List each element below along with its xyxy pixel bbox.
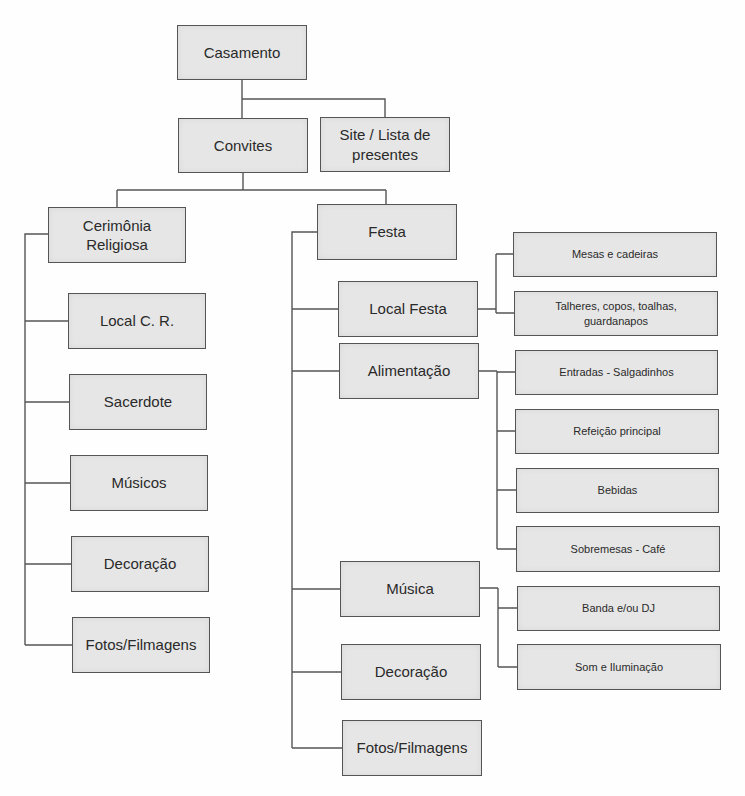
node-decoracao-cr: Decoração — [71, 536, 209, 592]
node-label: Sacerdote — [104, 392, 172, 412]
node-mesas: Mesas e cadeiras — [513, 232, 717, 277]
node-label: Músicos — [111, 473, 166, 493]
node-alimentacao: Alimentação — [339, 343, 479, 399]
node-label: Decoração — [375, 662, 448, 682]
node-label: Local C. R. — [100, 311, 174, 331]
node-som: Som e Iluminação — [517, 644, 721, 690]
node-local-cr: Local C. R. — [68, 293, 206, 349]
node-refeicao: Refeição principal — [515, 409, 719, 454]
node-banda: Banda e/ou DJ — [517, 586, 720, 631]
node-label: Sobremesas - Café — [571, 542, 666, 556]
connector-line — [25, 234, 72, 645]
node-label: Som e Iluminação — [575, 660, 663, 674]
node-talheres: Talheres, copos, toalhas, guardanapos — [514, 291, 718, 336]
node-label: Site / Lista de presentes — [340, 125, 431, 164]
node-cerimonia: Cerimônia Religiosa — [48, 207, 186, 263]
wedding-planning-tree-diagram: CasamentoConvitesSite / Lista de present… — [0, 0, 745, 796]
connector-line — [292, 232, 342, 748]
node-convites: Convites — [178, 118, 308, 173]
node-label: Convites — [214, 136, 272, 156]
node-entradas: Entradas - Salgadinhos — [515, 350, 718, 395]
node-festa: Festa — [317, 204, 457, 260]
node-sacerdote: Sacerdote — [69, 374, 207, 430]
node-label: Cerimônia Religiosa — [83, 216, 151, 255]
node-fotos-festa: Fotos/Filmagens — [342, 720, 482, 776]
node-label: Fotos/Filmagens — [86, 635, 197, 655]
node-label: Festa — [368, 222, 406, 242]
node-musicos: Músicos — [70, 455, 208, 511]
node-label: Música — [386, 579, 434, 599]
node-label: Fotos/Filmagens — [357, 738, 468, 758]
node-sobremesas: Sobremesas - Café — [516, 526, 720, 572]
node-label: Alimentação — [368, 361, 451, 381]
connector-line — [117, 173, 386, 207]
node-local-festa: Local Festa — [338, 281, 478, 337]
node-label: Talheres, copos, toalhas, guardanapos — [555, 299, 677, 328]
node-label: Decoração — [104, 554, 177, 574]
node-site-lista: Site / Lista de presentes — [320, 117, 450, 172]
node-musica: Música — [340, 561, 480, 617]
node-bebidas: Bebidas — [516, 468, 719, 513]
connector-line — [480, 588, 517, 667]
node-label: Entradas - Salgadinhos — [559, 365, 673, 379]
node-label: Banda e/ou DJ — [582, 601, 655, 615]
node-label: Refeição principal — [573, 424, 660, 438]
node-label: Bebidas — [598, 483, 638, 497]
node-fotos-cr: Fotos/Filmagens — [72, 617, 210, 673]
connector-line — [242, 99, 385, 117]
connector-line — [478, 254, 514, 313]
node-label: Mesas e cadeiras — [572, 247, 658, 261]
node-decoracao-festa: Decoração — [341, 644, 481, 700]
connector-line — [479, 371, 516, 549]
node-label: Local Festa — [369, 299, 447, 319]
node-casamento: Casamento — [177, 25, 307, 80]
node-label: Casamento — [204, 43, 281, 63]
